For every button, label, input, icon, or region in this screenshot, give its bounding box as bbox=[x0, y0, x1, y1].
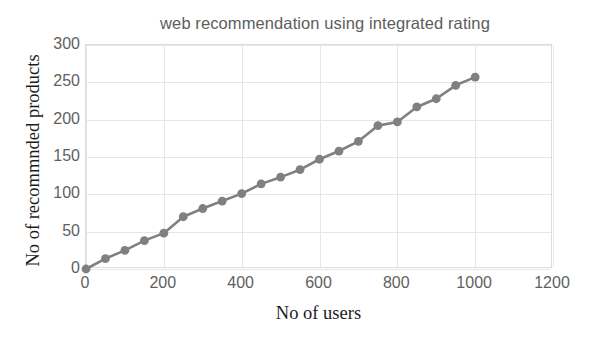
plot-area bbox=[85, 44, 552, 268]
y-tick-label: 200 bbox=[32, 110, 80, 128]
y-tick-label: 100 bbox=[32, 184, 80, 202]
data-point-marker bbox=[218, 197, 227, 206]
data-point-marker bbox=[237, 189, 246, 198]
x-tick-label: 200 bbox=[128, 274, 198, 292]
data-point-marker bbox=[179, 212, 188, 221]
data-point-marker bbox=[82, 265, 91, 274]
data-point-marker bbox=[315, 155, 324, 164]
x-tick-label: 600 bbox=[284, 274, 354, 292]
data-point-marker bbox=[335, 147, 344, 156]
data-point-marker bbox=[101, 254, 110, 263]
x-axis-tick-labels: 020040060080010001200 bbox=[85, 274, 552, 298]
chart-title: web recommendation using integrated rati… bbox=[110, 14, 540, 33]
data-point-marker bbox=[198, 204, 207, 213]
data-point-marker bbox=[296, 165, 305, 174]
y-axis-tick-labels: 050100150200250300 bbox=[26, 44, 80, 268]
line-series bbox=[86, 45, 553, 269]
data-point-marker bbox=[393, 118, 402, 127]
chart-figure: web recommendation using integrated rati… bbox=[0, 0, 600, 339]
data-point-marker bbox=[257, 179, 266, 188]
x-tick-label: 800 bbox=[361, 274, 431, 292]
data-point-marker bbox=[140, 236, 149, 245]
data-point-marker bbox=[432, 94, 441, 103]
data-point-marker bbox=[373, 121, 382, 130]
data-point-marker bbox=[471, 73, 480, 82]
y-tick-label: 50 bbox=[32, 222, 80, 240]
gridline-horizontal bbox=[86, 269, 551, 270]
gridline-vertical bbox=[553, 45, 554, 267]
data-point-marker bbox=[159, 229, 168, 238]
x-axis-title: No of users bbox=[85, 303, 552, 324]
data-point-marker bbox=[451, 81, 460, 90]
x-tick-label: 1200 bbox=[517, 274, 587, 292]
x-tick-label: 1000 bbox=[439, 274, 509, 292]
y-tick-label: 300 bbox=[32, 35, 80, 53]
x-tick-label: 400 bbox=[206, 274, 276, 292]
data-point-marker bbox=[276, 173, 285, 182]
data-point-marker bbox=[412, 103, 421, 112]
x-tick-label: 0 bbox=[50, 274, 120, 292]
data-point-marker bbox=[354, 137, 363, 146]
y-tick-label: 250 bbox=[32, 72, 80, 90]
data-point-marker bbox=[121, 246, 130, 255]
y-tick-label: 150 bbox=[32, 147, 80, 165]
